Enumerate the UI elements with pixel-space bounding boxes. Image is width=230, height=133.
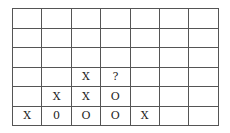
board-cell[interactable] <box>71 28 100 48</box>
board-cell[interactable] <box>159 9 188 29</box>
board-cell[interactable] <box>101 9 130 29</box>
board-cell[interactable] <box>13 67 42 87</box>
board-row: X? <box>13 67 219 87</box>
board-row: X0OOX <box>13 106 219 126</box>
board-cell[interactable] <box>13 28 42 48</box>
board-cell[interactable]: X <box>130 106 159 126</box>
board-cell[interactable] <box>101 48 130 68</box>
board-cell[interactable] <box>189 87 218 107</box>
board-cell[interactable]: O <box>101 87 130 107</box>
board-row <box>13 48 219 68</box>
board-cell[interactable] <box>42 28 71 48</box>
board-cell[interactable] <box>159 87 188 107</box>
board-cell[interactable]: X <box>13 106 42 126</box>
board-cell[interactable]: X <box>71 87 100 107</box>
board-cell[interactable] <box>13 87 42 107</box>
board-cell[interactable] <box>130 67 159 87</box>
board-cell[interactable] <box>130 9 159 29</box>
game-board: X?XXOX0OOX <box>12 8 219 126</box>
board-cell[interactable]: 0 <box>42 106 71 126</box>
board-cell[interactable] <box>13 48 42 68</box>
board-row <box>13 9 219 29</box>
board-cell[interactable] <box>13 9 42 29</box>
board-cell[interactable] <box>130 28 159 48</box>
board-cell[interactable] <box>189 9 218 29</box>
board-cell[interactable] <box>189 106 218 126</box>
board-row <box>13 28 219 48</box>
board-cell[interactable] <box>189 48 218 68</box>
board-cell[interactable] <box>159 106 188 126</box>
board-cell[interactable] <box>42 48 71 68</box>
board-cell[interactable] <box>189 28 218 48</box>
board-cell[interactable]: ? <box>101 67 130 87</box>
board-cell[interactable]: O <box>71 106 100 126</box>
board-cell[interactable]: X <box>42 87 71 107</box>
board-cell[interactable] <box>130 48 159 68</box>
board-cell[interactable] <box>42 9 71 29</box>
board-row: XXO <box>13 87 219 107</box>
board-cell[interactable] <box>71 48 100 68</box>
board-cell[interactable] <box>189 67 218 87</box>
board-cell[interactable] <box>130 87 159 107</box>
board-cell[interactable] <box>159 28 188 48</box>
board-cell[interactable] <box>159 48 188 68</box>
board-cell[interactable] <box>71 9 100 29</box>
board-cell[interactable]: O <box>101 106 130 126</box>
board-cell[interactable] <box>159 67 188 87</box>
board-cell[interactable] <box>42 67 71 87</box>
board-cell[interactable]: X <box>71 67 100 87</box>
board-cell[interactable] <box>101 28 130 48</box>
